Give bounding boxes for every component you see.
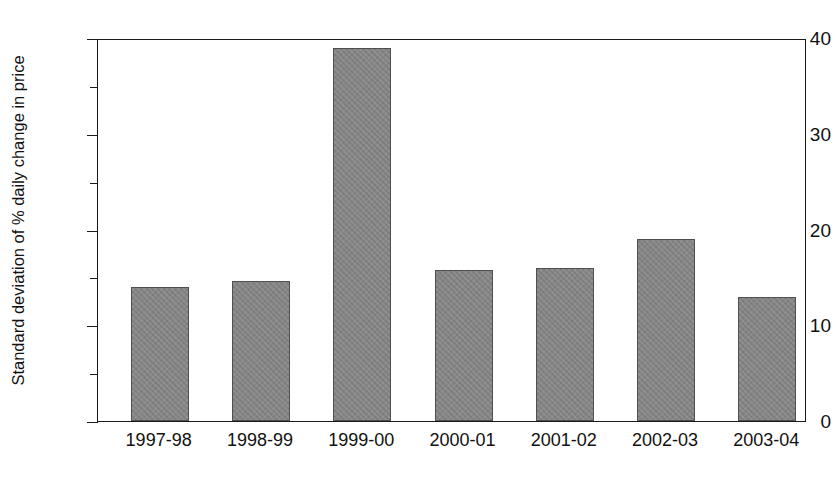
bar [536, 268, 594, 421]
plot-area [97, 39, 806, 422]
x-axis-tick-label: 2003-04 [733, 430, 799, 451]
bar [435, 270, 493, 421]
x-axis-tick-label: 2000-01 [429, 430, 495, 451]
x-axis-tick-label: 1999-00 [328, 430, 394, 451]
x-axis-tick-label: 2002-03 [632, 430, 698, 451]
bar [333, 48, 391, 421]
x-axis-tick-label: 1997-98 [126, 430, 192, 451]
y-axis-tick-major [87, 422, 98, 423]
x-axis-tick-label: 2001-02 [531, 430, 597, 451]
bar-chart-figure: Standard deviation of % daily change in … [0, 0, 836, 482]
y-axis-title: Standard deviation of % daily change in … [9, 55, 28, 385]
bar [131, 287, 189, 421]
bar [232, 281, 290, 421]
y-axis-title-container: Standard deviation of % daily change in … [0, 0, 36, 440]
bar [637, 239, 695, 421]
x-axis-tick-label: 1998-99 [227, 430, 293, 451]
bar [738, 297, 796, 421]
